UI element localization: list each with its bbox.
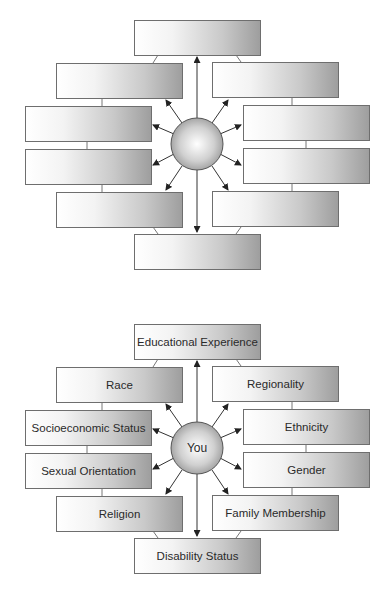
- box-disability-status: Disability Status: [134, 538, 261, 574]
- box-left-3: [25, 149, 152, 185]
- box-race: Race: [56, 367, 183, 403]
- box-left-1: [56, 63, 183, 99]
- box-regionality: Regionality: [212, 366, 339, 402]
- box-right-4: [212, 191, 339, 227]
- center-label-you: You: [187, 441, 207, 455]
- box-top: [134, 20, 261, 56]
- box-left-4: [56, 192, 183, 228]
- identity-diagram-blank: [0, 0, 390, 280]
- center-circle: [171, 118, 223, 170]
- box-religion: Religion: [56, 496, 183, 532]
- box-family-membership: Family Membership: [212, 495, 339, 531]
- identity-diagram-labeled: Educational Experience Race Regionality …: [0, 304, 390, 584]
- box-right-2: [243, 105, 370, 141]
- box-ethnicity: Ethnicity: [243, 409, 370, 445]
- box-educational-experience: Educational Experience: [134, 324, 261, 360]
- box-right-1: [212, 62, 339, 98]
- box-left-2: [25, 106, 152, 142]
- box-right-3: [243, 148, 370, 184]
- box-bottom: [134, 234, 261, 270]
- box-gender: Gender: [243, 452, 370, 488]
- box-socioeconomic-status: Socioeconomic Status: [25, 410, 152, 446]
- box-sexual-orientation: Sexual Orientation: [25, 453, 152, 489]
